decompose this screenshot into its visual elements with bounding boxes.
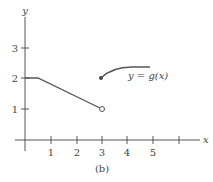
x-tick-label: 4 bbox=[124, 147, 130, 158]
caption: (b) bbox=[95, 163, 109, 174]
y-tick-label: 2 bbox=[12, 73, 18, 84]
y-tick-label: 3 bbox=[12, 43, 18, 54]
y-tick-label: 1 bbox=[12, 104, 18, 115]
x-tick-label: 2 bbox=[74, 147, 80, 158]
x-tick-label: 3 bbox=[99, 147, 105, 158]
x-tick-label: 1 bbox=[48, 147, 54, 158]
open-circle-marker bbox=[100, 107, 105, 112]
y-axis-label: y bbox=[21, 5, 28, 16]
segment-1 bbox=[25, 78, 102, 109]
x-axis-label: x bbox=[203, 134, 209, 145]
x-tick-label: 5 bbox=[150, 147, 156, 158]
chart: 1 2 3 4 5 1 2 3 y x y = g(x) (b) bbox=[0, 0, 213, 182]
function-label: y = g(x) bbox=[127, 70, 168, 81]
